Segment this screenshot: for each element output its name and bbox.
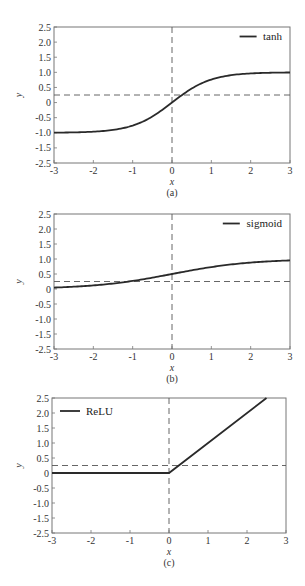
- y-tick-label: -1.5: [35, 329, 51, 340]
- y-tick-label: 2.0: [39, 224, 52, 235]
- x-tick-label: 2: [248, 165, 253, 176]
- x-tick-label: -1: [128, 351, 136, 362]
- chart-panel-2: -3-2-101232.52.01.51.00.50-0.5-1.0-1.5-2…: [13, 209, 293, 386]
- x-tick-label: 0: [170, 165, 175, 176]
- y-tick-label: 2.5: [39, 22, 52, 33]
- x-tick-label: -2: [89, 351, 97, 362]
- x-tick-label: -1: [126, 535, 134, 546]
- chart-panel-1: -3-2-101232.52.01.51.00.50-0.5-1.0-1.5-2…: [13, 22, 293, 200]
- y-tick-label: 1.0: [37, 438, 50, 449]
- x-tick-label: -1: [128, 165, 136, 176]
- y-tick-label: 0: [46, 284, 51, 295]
- figure: -3-2-101232.52.01.51.00.50-0.5-1.0-1.5-2…: [0, 0, 305, 586]
- x-tick-label: 0: [170, 351, 175, 362]
- x-tick-label: 1: [206, 535, 211, 546]
- x-tick-label: 3: [284, 535, 289, 546]
- legend: sigmoid: [223, 217, 283, 229]
- y-axis-label: y: [13, 463, 24, 469]
- panel-caption: (a): [166, 187, 177, 199]
- y-tick-label: 2.0: [37, 408, 50, 419]
- y-tick-label: 0.5: [39, 269, 52, 280]
- y-tick-label: 2.5: [39, 209, 52, 220]
- y-tick-label: 1.5: [37, 423, 50, 434]
- y-tick-label: -1.0: [35, 314, 51, 325]
- y-tick-label: -0.5: [35, 299, 51, 310]
- x-axis-label: x: [169, 176, 175, 187]
- panel-caption: (b): [166, 373, 178, 385]
- legend: ReLU: [60, 405, 113, 417]
- x-tick-label: 1: [209, 165, 214, 176]
- x-tick-label: -2: [87, 535, 95, 546]
- x-tick-label: -3: [50, 351, 58, 362]
- y-tick-label: -2.5: [35, 158, 51, 169]
- y-axis-label: y: [13, 279, 24, 285]
- y-tick-label: 0.5: [37, 453, 50, 464]
- x-tick-label: -2: [89, 165, 97, 176]
- chart-panel-3: -3-2-101232.52.01.51.00.50-0.5-1.0-1.5-2…: [13, 393, 289, 570]
- panel-caption: (c): [163, 557, 174, 569]
- y-tick-label: -0.5: [33, 483, 49, 494]
- x-tick-label: 3: [288, 165, 293, 176]
- x-axis-label: x: [169, 362, 175, 373]
- y-axis-label: y: [13, 92, 24, 98]
- y-tick-label: 1.0: [39, 67, 52, 78]
- y-tick-label: -0.5: [35, 112, 51, 123]
- y-tick-label: 2.5: [37, 393, 50, 404]
- y-tick-label: -1.0: [33, 498, 49, 509]
- x-tick-label: -3: [48, 535, 56, 546]
- x-tick-label: 0: [167, 535, 172, 546]
- y-tick-label: -1.5: [35, 142, 51, 153]
- x-tick-label: 2: [248, 351, 253, 362]
- y-tick-label: -2.5: [33, 528, 49, 539]
- y-tick-label: -1.0: [35, 127, 51, 138]
- x-tick-label: 3: [288, 351, 293, 362]
- y-tick-label: 0.5: [39, 82, 52, 93]
- y-tick-label: 1.0: [39, 254, 52, 265]
- x-tick-label: 2: [245, 535, 250, 546]
- y-tick-label: 0: [46, 97, 51, 108]
- x-tick-label: 1: [209, 351, 214, 362]
- y-tick-label: 1.5: [39, 239, 52, 250]
- x-axis-label: x: [166, 546, 172, 557]
- legend: tanh: [240, 30, 283, 42]
- y-tick-label: -1.5: [33, 513, 49, 524]
- y-tick-label: 0: [44, 468, 49, 479]
- y-tick-label: 2.0: [39, 37, 52, 48]
- y-tick-label: 1.5: [39, 52, 52, 63]
- x-tick-label: -3: [50, 165, 58, 176]
- legend-label: tanh: [263, 30, 282, 42]
- legend-label: ReLU: [86, 405, 113, 417]
- y-tick-label: -2.5: [35, 344, 51, 355]
- legend-label: sigmoid: [247, 217, 283, 229]
- relu-curve: [52, 398, 267, 473]
